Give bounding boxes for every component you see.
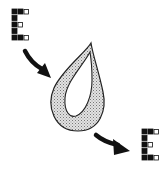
diagram-canvas xyxy=(0,0,168,173)
filled-square xyxy=(142,155,147,160)
hollow-square xyxy=(18,23,23,28)
filled-square xyxy=(12,9,17,14)
input-arrow-icon xyxy=(25,51,51,78)
output-arrow-icon xyxy=(96,135,130,155)
filled-square xyxy=(142,136,147,141)
filled-square xyxy=(18,9,23,14)
input-grid xyxy=(12,9,29,40)
filled-square xyxy=(12,16,17,21)
filled-square xyxy=(142,129,147,134)
filled-square xyxy=(148,129,153,134)
filled-square xyxy=(142,142,147,147)
filled-square xyxy=(12,29,17,34)
hollow-square xyxy=(154,130,159,135)
output-grid xyxy=(142,129,159,160)
filled-square xyxy=(148,155,153,160)
teardrop-container xyxy=(51,43,104,131)
hollow-square xyxy=(148,143,153,148)
filled-square xyxy=(142,149,147,154)
filled-square xyxy=(12,22,17,27)
hollow-square xyxy=(154,156,159,161)
filled-square xyxy=(12,35,17,40)
hollow-square xyxy=(24,36,29,41)
hollow-square xyxy=(24,10,29,15)
filled-square xyxy=(18,35,23,40)
